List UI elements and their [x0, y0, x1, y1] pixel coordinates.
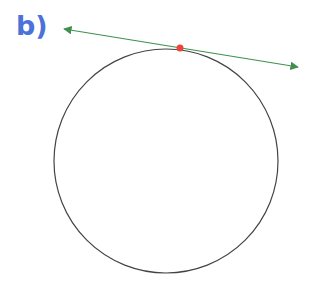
tangent-point	[177, 45, 184, 52]
circle	[54, 49, 278, 273]
diagram-canvas	[0, 0, 315, 290]
